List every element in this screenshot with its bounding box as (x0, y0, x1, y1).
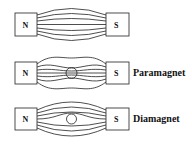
diamagnet-label: Diamagnet (133, 113, 180, 124)
field-lines-diamagnet (15, 102, 129, 136)
south-label: S (114, 21, 119, 30)
south-label: S (114, 115, 119, 124)
north-label: N (23, 115, 29, 124)
field-lines-paramagnet (15, 57, 129, 89)
north-label: N (23, 69, 29, 78)
field-lines-vacuum (15, 9, 129, 41)
north-label: N (23, 21, 29, 30)
paramagnet-label: Paramagnet (133, 67, 185, 78)
diamagnet-sample (67, 114, 77, 124)
south-label: S (114, 69, 119, 78)
